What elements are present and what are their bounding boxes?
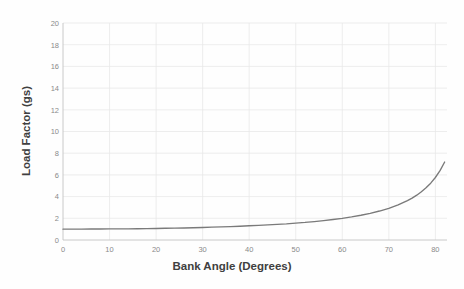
y-tick-label: 12: [51, 106, 59, 115]
y-tick-label: 10: [51, 127, 59, 136]
y-tick-label: 0: [55, 236, 59, 245]
x-tick-label: 80: [431, 245, 439, 254]
x-tick-label: 10: [105, 245, 113, 254]
y-tick-label: 16: [51, 62, 59, 71]
y-tick-label: 18: [51, 41, 59, 50]
x-axis-title: Bank Angle (Degrees): [172, 260, 291, 272]
load-factor-vs-bank-angle-chart: 02468101214161820 01020304050607080 Bank…: [0, 0, 464, 289]
x-tick-label: 50: [292, 245, 300, 254]
y-axis-title: Load Factor (gs): [20, 86, 32, 176]
chart-background: [0, 0, 464, 289]
y-tick-label: 8: [55, 149, 59, 158]
x-tick-label: 0: [61, 245, 65, 254]
x-tick-label: 70: [385, 245, 393, 254]
y-tick-label: 6: [55, 171, 59, 180]
x-tick-label: 40: [245, 245, 253, 254]
x-tick-label: 60: [338, 245, 346, 254]
y-tick-label: 2: [55, 214, 59, 223]
y-tick-label: 14: [51, 84, 59, 93]
x-tick-label: 20: [152, 245, 160, 254]
x-tick-label: 30: [198, 245, 206, 254]
y-tick-label: 20: [51, 19, 59, 28]
y-tick-label: 4: [55, 192, 59, 201]
